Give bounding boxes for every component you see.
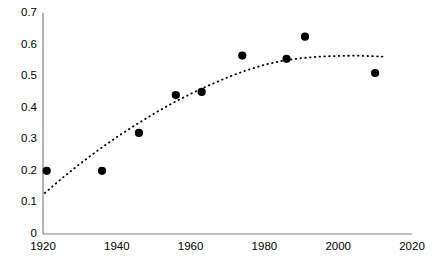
x-tick-label: 1920	[30, 241, 56, 253]
data-point	[198, 88, 206, 96]
data-point	[301, 33, 309, 41]
x-tick-label: 2020	[399, 241, 425, 253]
y-tick-label: 0.5	[0, 70, 37, 82]
data-point	[43, 167, 51, 175]
data-point	[135, 129, 143, 137]
y-tick-label: 0.3	[0, 134, 37, 146]
y-tick-label: 0	[0, 228, 37, 240]
data-point	[282, 55, 290, 63]
plot-area	[0, 0, 442, 270]
trend-line-path	[45, 56, 383, 193]
y-tick-label: 0.4	[0, 102, 37, 114]
y-tick-label: 0.6	[0, 39, 37, 51]
scatter-chart: 00.10.20.30.40.50.60.7 19201940196019802…	[0, 0, 442, 270]
data-point	[238, 52, 246, 60]
axis-lines	[43, 13, 412, 234]
y-tick-label: 0.1	[0, 197, 37, 209]
x-tick-label: 1960	[178, 241, 204, 253]
y-tick-label: 0.7	[0, 7, 37, 19]
x-tick-label: 1980	[252, 241, 278, 253]
trend-line	[45, 56, 383, 193]
data-point	[98, 167, 106, 175]
x-tick-label: 2000	[325, 241, 351, 253]
data-point	[172, 91, 180, 99]
x-tick-label: 1940	[104, 241, 130, 253]
y-tick-label: 0.2	[0, 165, 37, 177]
data-point	[371, 69, 379, 77]
